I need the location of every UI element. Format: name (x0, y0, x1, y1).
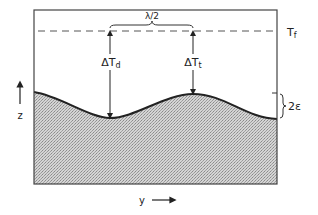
amplitude-label: 2ε (288, 100, 301, 113)
freezing-temp-label: Tf (286, 26, 297, 40)
delta-td-label: ΔTd (101, 56, 120, 70)
half-wavelength-label: λ/2 (145, 11, 159, 21)
amplitude-brace (280, 94, 286, 118)
z-axis-label: z (17, 110, 22, 121)
y-axis-label: y (139, 195, 145, 206)
half-wavelength-brace (110, 21, 193, 28)
delta-tt-label: ΔTt (184, 56, 201, 70)
interface-diagram: λ/2 ΔTd ΔTt Tf 2ε z y (0, 0, 318, 215)
